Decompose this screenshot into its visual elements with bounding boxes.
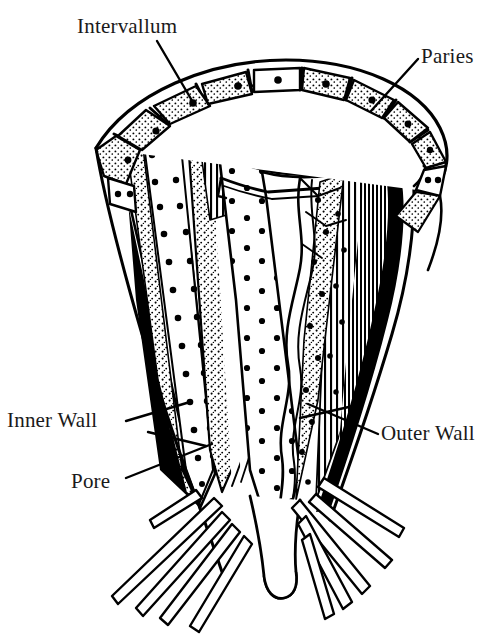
diagram-ink (96, 41, 447, 632)
figure-root: Intervallum Paries Inner Wall Pore Outer… (0, 0, 501, 634)
label-paries: Paries (421, 46, 474, 67)
archaeocyathid-diagram (0, 0, 501, 634)
label-outer-wall: Outer Wall (381, 423, 475, 444)
label-intervallum: Intervallum (77, 16, 177, 37)
base-tip (250, 496, 300, 598)
outer-wall-band (278, 130, 414, 538)
label-inner-wall: Inner Wall (7, 410, 97, 431)
label-pore: Pore (71, 471, 110, 492)
rim-chamber (254, 68, 300, 92)
